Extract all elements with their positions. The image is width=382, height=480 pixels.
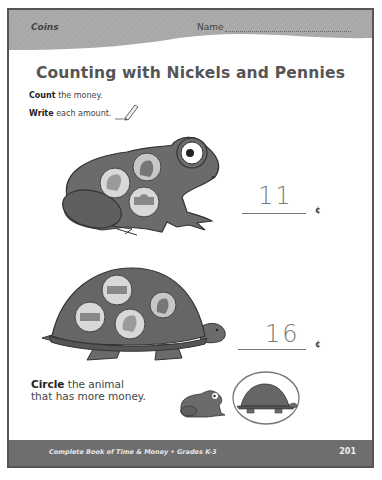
name-input-line[interactable] [225, 31, 351, 32]
instruction-write-verb: Write [29, 109, 54, 118]
worksheet-page: Coins Name Counting with Nickels and Pen… [7, 8, 374, 468]
frog-illustration [47, 127, 222, 242]
coin-nickel-back [75, 302, 105, 332]
coin-penny-front [150, 292, 176, 318]
circle-instruction: Circle the animal that has more money. [31, 378, 146, 402]
answer-line-turtle[interactable] [238, 349, 306, 350]
frog-choice[interactable] [177, 387, 227, 422]
name-label: Name [197, 22, 224, 32]
answer-value-turtle: 16 [265, 320, 300, 348]
coin-nickel-back [129, 187, 159, 217]
instruction-count-rest: the money. [56, 91, 103, 100]
answer-value-frog: 11 [258, 182, 293, 210]
instruction-write-rest: each amount. [54, 109, 112, 118]
answer-line-frog[interactable] [242, 213, 306, 214]
instruction-count: Count the money. [29, 91, 103, 100]
cent-symbol-frog: ¢ [315, 206, 321, 215]
coin-nickel-back [102, 275, 132, 305]
footer-band: Complete Book of Time & Money • Grades K… [9, 440, 372, 466]
pencil-icon [115, 101, 139, 121]
coin-penny-front [133, 153, 161, 181]
section-label: Coins [31, 22, 59, 32]
header-band: Coins Name [9, 10, 372, 58]
page-number: 201 [339, 447, 356, 456]
page-title: Counting with Nickels and Pennies [9, 64, 372, 82]
circle-instruction-rest1: the animal [64, 378, 124, 390]
circle-instruction-verb: Circle [31, 378, 64, 390]
cent-symbol-turtle: ¢ [315, 340, 321, 349]
turtle-choice-circled[interactable] [231, 370, 301, 426]
book-title: Complete Book of Time & Money • Grades K… [49, 448, 217, 456]
turtle-illustration [37, 260, 232, 370]
instruction-write: Write each amount. [29, 109, 111, 118]
coin-nickel-front [115, 309, 145, 339]
header-wave-shape [9, 10, 374, 58]
circle-instruction-rest2: that has more money. [31, 390, 146, 402]
instruction-count-verb: Count [29, 91, 56, 100]
coin-nickel-front [100, 168, 130, 198]
